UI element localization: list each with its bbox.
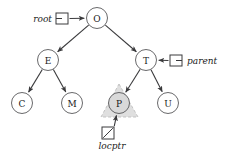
tree-edge-o-t: [105, 25, 136, 52]
bst-pointer-diagram: OETCMPUrootparentlocptr: [0, 0, 225, 159]
tree-edge-e-c: [29, 69, 43, 92]
tree-edge-o-e: [58, 25, 89, 52]
pointer-label-parent: parent: [187, 56, 218, 66]
label-layer: OETCMPUrootparentlocptr: [19, 14, 218, 152]
tree-edge-t-u: [151, 70, 162, 92]
tree-node-label-t: T: [143, 56, 149, 66]
tree-node-label-o: O: [93, 14, 100, 24]
pointer-variable-root: [56, 13, 84, 24]
tree-node-label-m: M: [67, 99, 76, 109]
tree-node-label-u: U: [164, 99, 172, 109]
tree-node-label-p: P: [116, 99, 122, 109]
diagram-canvas: OETCMPUrootparentlocptr: [0, 0, 225, 159]
pointer-variable-locptr: [102, 115, 116, 139]
pointer-layer: [56, 13, 182, 139]
tree-edge-t-p: [126, 69, 140, 92]
tree-edge-e-m: [53, 70, 65, 92]
pointer-label-root: root: [33, 14, 52, 24]
tree-node-label-c: C: [19, 99, 26, 109]
pointer-label-locptr: locptr: [98, 141, 126, 151]
tree-node-label-e: E: [45, 56, 52, 66]
pointer-variable-parent: [159, 55, 182, 66]
